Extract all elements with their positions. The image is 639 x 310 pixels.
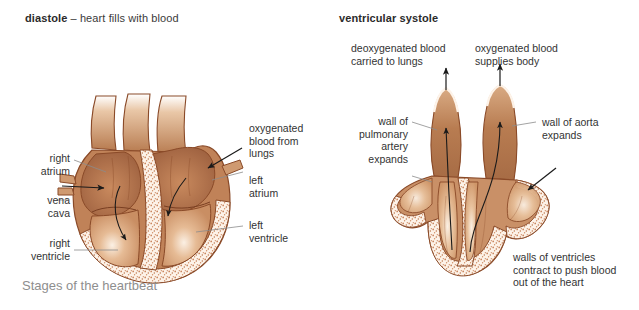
label-deoxygenated-blood-carried-to-lungs: deoxygenated blood carried to lungs	[351, 42, 461, 67]
label-right-ventricle: right ventricle	[6, 237, 70, 262]
diastole-heart-illustration	[57, 94, 243, 283]
label-left-ventricle: left ventricle	[249, 219, 319, 244]
figure-caption: Stages of the heartbeat	[22, 278, 157, 293]
systole-panel-title: ventricular systole	[339, 12, 438, 24]
diastole-panel-title: diastole – heart fills with blood	[25, 12, 179, 24]
leader-left-atrium	[212, 172, 243, 180]
label-left-atrium: left atrium	[249, 174, 319, 199]
leader-aorta-wall	[512, 122, 536, 126]
label-wall-of-pulmonary-artery-expands: wall of pulmonary artery expands	[340, 115, 408, 165]
leader-left-ventricle	[196, 226, 243, 232]
label-vena-cava: vena cava	[10, 194, 70, 219]
systole-heart-illustration	[391, 64, 556, 276]
aorta-expansion-arrow	[528, 168, 556, 190]
flow-arrow-right-side	[115, 186, 126, 240]
label-right-atrium: right atrium	[10, 152, 70, 177]
leader-right-atrium	[74, 160, 106, 172]
label-wall-of-aorta-expands: wall of aorta expands	[542, 116, 634, 141]
diastole-title-description: – heart fills with blood	[67, 12, 178, 24]
label-oxygenated-blood-supplies-body: oxygenated blood supplies body	[475, 42, 585, 67]
flow-arrow-left-side	[168, 178, 186, 216]
pulmonary-vein-arrow	[208, 148, 242, 168]
ejection-arrow-aorta	[470, 122, 500, 252]
systole-title-term: ventricular systole	[339, 12, 438, 24]
leader-pulmonary-wall-2	[412, 176, 432, 182]
label-walls-of-ventricles-contract: walls of ventricles contract to push blo…	[513, 251, 637, 289]
heartbeat-stages-figure: diastole – heart fills with blood ventri…	[0, 0, 639, 310]
leader-pulmonary-wall	[412, 122, 437, 130]
ejection-arrow-pulmonary	[446, 128, 452, 250]
label-oxygenated-blood-from-lungs: oxygenated blood from lungs	[249, 122, 329, 160]
diastole-title-term: diastole	[25, 12, 67, 24]
vena-cava-arrow	[62, 186, 104, 188]
